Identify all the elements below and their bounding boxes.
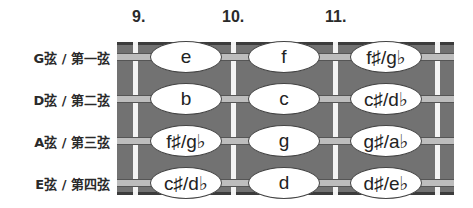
string-label-d: D弦 / 第二弦 [14, 90, 110, 109]
note-e-fret11: d♯/e♭ [350, 167, 422, 199]
note-e-fret9: c♯/d♭ [150, 167, 222, 199]
note-d-fret11: c♯/d♭ [350, 83, 422, 115]
fret-wire-12 [435, 42, 440, 195]
fret-number-9: 9. [132, 8, 145, 26]
fret-number-10: 10. [222, 8, 244, 26]
fret-wire-11 [333, 42, 338, 195]
fret-wire-9 [133, 42, 138, 195]
note-e-fret10: d [248, 167, 320, 199]
note-g-fret9: e [150, 41, 222, 73]
string-label-g: G弦 / 第一弦 [14, 48, 110, 67]
note-g-fret10: f [248, 41, 320, 73]
note-a-fret10: g [248, 125, 320, 157]
fret-number-11: 11. [325, 8, 346, 26]
note-d-fret9: b [150, 83, 222, 115]
string-label-e: E弦 / 第四弦 [14, 174, 110, 193]
note-a-fret9: f♯/g♭ [150, 125, 222, 157]
note-a-fret11: g♯/a♭ [350, 125, 422, 157]
string-label-a: A弦 / 第三弦 [14, 132, 110, 151]
fret-wire-10 [231, 42, 236, 195]
note-d-fret10: c [248, 83, 320, 115]
note-g-fret11: f♯/g♭ [350, 41, 422, 73]
